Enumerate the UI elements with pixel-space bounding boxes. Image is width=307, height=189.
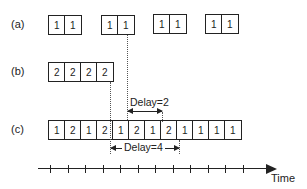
row-label-b: (b) xyxy=(11,65,24,77)
cell: 1 xyxy=(48,15,66,35)
tick xyxy=(138,165,139,173)
tick xyxy=(50,165,51,173)
cell: 1 xyxy=(169,14,187,34)
guide-line-b xyxy=(110,82,111,154)
tick xyxy=(85,165,86,173)
delay-2-arrow xyxy=(128,111,162,112)
tick xyxy=(103,165,104,173)
time-axis xyxy=(38,168,268,169)
tick xyxy=(68,165,69,173)
cell: 1 xyxy=(208,120,226,140)
cell: 1 xyxy=(117,15,135,35)
cell: 1 xyxy=(192,120,210,140)
row-a-group-2: 1 1 xyxy=(101,15,135,35)
tick xyxy=(225,165,226,173)
cell: 2 xyxy=(80,62,98,82)
cell: 1 xyxy=(144,120,162,140)
cell: 1 xyxy=(153,14,171,34)
cell: 1 xyxy=(80,120,98,140)
cell: 1 xyxy=(205,14,223,34)
tick xyxy=(190,165,191,173)
cell: 2 xyxy=(96,62,114,82)
cell: 1 xyxy=(176,120,194,140)
tick xyxy=(243,165,244,173)
cell: 2 xyxy=(160,120,178,140)
row-a-group-3: 1 1 xyxy=(153,14,187,34)
row-b: 2 2 2 2 xyxy=(48,62,114,82)
cell: 1 xyxy=(101,15,119,35)
row-c: 1 2 1 2 1 2 1 2 1 1 1 1 xyxy=(48,120,242,140)
delay-4-label: Delay=4 xyxy=(122,141,165,153)
cell: 1 xyxy=(48,120,66,140)
tick xyxy=(155,165,156,173)
row-label-c: (c) xyxy=(11,123,24,135)
delay-2-label: Delay=2 xyxy=(130,96,169,108)
cell: 1 xyxy=(221,14,239,34)
time-axis-label: Time xyxy=(271,172,295,184)
row-a-group-4: 1 1 xyxy=(205,14,239,34)
tick xyxy=(120,165,121,173)
cell: 2 xyxy=(128,120,146,140)
row-label-a: (a) xyxy=(11,18,24,30)
cell: 1 xyxy=(224,120,242,140)
cell: 2 xyxy=(48,62,66,82)
cell: 1 xyxy=(64,15,82,35)
tick xyxy=(173,165,174,173)
cell: 2 xyxy=(64,120,82,140)
cell: 2 xyxy=(64,62,82,82)
tick xyxy=(208,165,209,173)
row-a-group-1: 1 1 xyxy=(48,15,82,35)
cell: 1 xyxy=(112,120,130,140)
